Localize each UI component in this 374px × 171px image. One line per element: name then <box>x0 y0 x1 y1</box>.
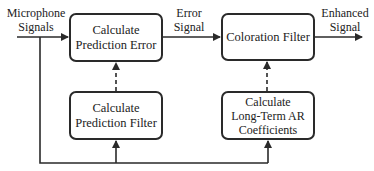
block-calculate-prediction-error: Calculate Prediction Error <box>69 13 163 62</box>
input-label: Microphone Signals <box>0 6 72 34</box>
block-calculate-ar-coefficients: Calculate Long-Term AR Coefficients <box>221 91 315 140</box>
output-label: Enhanced Signal <box>316 6 374 34</box>
block-coloration-filter: Coloration Filter <box>221 13 315 61</box>
block-text: Prediction Error <box>76 38 157 53</box>
block-text: Coloration Filter <box>226 30 310 45</box>
block-diagram: Microphone Signals Error Signal Enhanced… <box>0 0 374 171</box>
block-text: Calculate <box>245 95 290 109</box>
block-text: Long-Term AR <box>231 109 304 123</box>
input-label-line1: Microphone <box>0 6 72 20</box>
block-text: Prediction Filter <box>75 116 157 131</box>
input-label-line2: Signals <box>0 20 72 34</box>
block-calculate-prediction-filter: Calculate Prediction Filter <box>69 91 163 140</box>
block-text: Calculate <box>92 23 139 38</box>
error-signal-label: Error Signal <box>163 6 215 34</box>
error-label-line2: Signal <box>163 20 215 34</box>
block-text: Coefficients <box>239 123 297 137</box>
output-label-line1: Enhanced <box>316 6 374 20</box>
output-label-line2: Signal <box>316 20 374 34</box>
error-label-line1: Error <box>163 6 215 20</box>
block-text: Calculate <box>92 101 139 116</box>
